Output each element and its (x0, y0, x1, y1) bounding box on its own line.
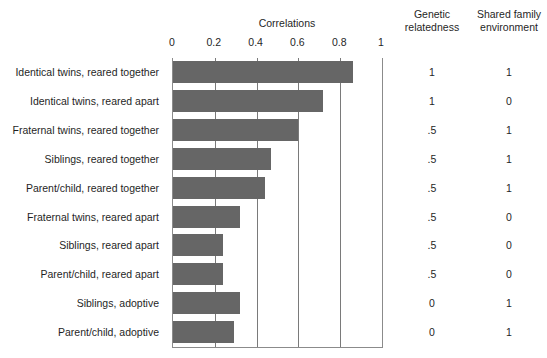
genetic-relatedness-value: 0 (396, 289, 468, 318)
shared-family-environment-value: 1 (472, 145, 546, 174)
x-tick-label: 0 (169, 36, 175, 48)
bar (173, 263, 223, 285)
genetic-relatedness-value: .5 (396, 145, 468, 174)
shared-family-environment-value: 1 (472, 58, 546, 87)
genetic-relatedness-value: 1 (396, 87, 468, 116)
genetic-relatedness-value: 1 (396, 58, 468, 87)
genetic-relatedness-value: .5 (396, 203, 468, 232)
shared-family-environment-value: 1 (472, 318, 546, 347)
category-label: Fraternal twins, reared apart (27, 203, 159, 232)
x-tick-label: 0.2 (206, 36, 221, 48)
bar-row (173, 145, 382, 174)
genetic-relatedness-value: .5 (396, 231, 468, 260)
shared-family-environment-value: 0 (472, 87, 546, 116)
plot-area (172, 58, 383, 348)
category-label: Siblings, reared apart (59, 231, 159, 260)
genetic-relatedness-value: .5 (396, 174, 468, 203)
bar-row (173, 260, 382, 289)
shared-family-environment-value: 1 (472, 116, 546, 145)
correlation-bar-chart: Genetic relatedness Shared family enviro… (0, 0, 547, 358)
category-label: Parent/child, adoptive (58, 318, 159, 347)
shared-family-environment-value: 0 (472, 260, 546, 289)
column-header-genetic-relatedness: Genetic relatedness (396, 8, 468, 33)
bar (173, 90, 323, 112)
chart-title: Correlations (232, 17, 342, 29)
column-header-shared-family-environment: Shared family environment (472, 8, 546, 33)
x-tick-label: 1 (378, 36, 384, 48)
shared-family-environment-value: 1 (472, 174, 546, 203)
annotation-row: .50 (390, 231, 547, 260)
bar-row (173, 58, 382, 87)
shared-family-environment-value: 0 (472, 203, 546, 232)
genetic-relatedness-value: .5 (396, 260, 468, 289)
annotation-row: 10 (390, 87, 547, 116)
bar (173, 292, 240, 314)
annotation-value-columns: 1110.51.51.51.50.50.500101 (390, 58, 547, 347)
x-axis-tick-labels: 00.20.40.60.81 (0, 36, 547, 50)
category-label: Siblings, reared together (45, 145, 159, 174)
annotation-row: .50 (390, 203, 547, 232)
category-label: Fraternal twins, reared together (13, 116, 160, 145)
annotation-row: .51 (390, 116, 547, 145)
annotation-row: .51 (390, 145, 547, 174)
shared-family-environment-value: 1 (472, 289, 546, 318)
x-tick-label: 0.4 (248, 36, 263, 48)
shared-family-environment-value: 0 (472, 231, 546, 260)
bar (173, 119, 298, 141)
category-label: Identical twins, reared apart (30, 87, 159, 116)
bar-row (173, 203, 382, 232)
bar-row (173, 116, 382, 145)
bar-row (173, 174, 382, 203)
category-label: Siblings, adoptive (77, 289, 159, 318)
annotation-row: 01 (390, 318, 547, 347)
genetic-relatedness-value: .5 (396, 116, 468, 145)
category-label: Identical twins, reared together (15, 58, 159, 87)
annotation-row: 01 (390, 289, 547, 318)
x-tick-label: 0.8 (332, 36, 347, 48)
bar-series (173, 58, 382, 347)
bar-row (173, 231, 382, 260)
bar (173, 234, 223, 256)
annotation-row: 11 (390, 58, 547, 87)
bar (173, 61, 353, 83)
bar (173, 148, 271, 170)
bar-row (173, 87, 382, 116)
bar (173, 206, 240, 228)
category-axis-labels: Identical twins, reared togetherIdentica… (0, 58, 167, 347)
category-label: Parent/child, reared apart (41, 260, 159, 289)
genetic-relatedness-value: 0 (396, 318, 468, 347)
bar-row (173, 289, 382, 318)
annotation-row: .51 (390, 174, 547, 203)
bar (173, 177, 265, 199)
bar-row (173, 318, 382, 347)
bar (173, 321, 234, 343)
x-tick-label: 0.6 (290, 36, 305, 48)
annotation-row: .50 (390, 260, 547, 289)
category-label: Parent/child, reared together (26, 174, 159, 203)
